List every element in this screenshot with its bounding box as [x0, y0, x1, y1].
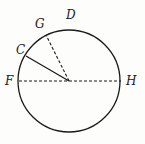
label-c: C	[16, 43, 25, 57]
label-g: G	[35, 17, 45, 31]
radius-c-solid	[26, 56, 69, 81]
label-d: D	[65, 8, 76, 22]
diagram-canvas: D G C F H	[0, 0, 145, 144]
label-f: F	[4, 74, 14, 88]
label-h: H	[125, 74, 137, 88]
circle-diagram: D G C F H	[0, 0, 145, 144]
